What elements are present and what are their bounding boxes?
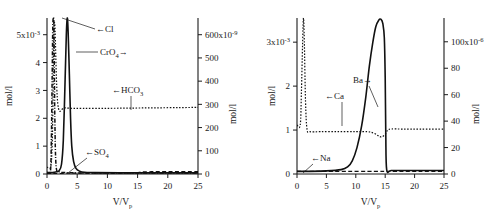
x-tick-label: 5 [324,181,329,191]
left-y-tick-label: 1 [286,125,291,135]
right-y-axis-title: mol/l [228,104,238,124]
x-tick-label: 0 [295,181,300,191]
right-y-tick-label: 400 [205,76,219,86]
dual-panel-chromatography-figure: 0510152025V/Vp012345x10-3mol/l0100200300… [0,0,493,222]
series-cro4 [47,18,198,173]
left-y-tick-label: 3 [36,86,41,96]
x-tick-label: 5 [75,181,80,191]
left-y-tick-label: 4 [36,58,41,68]
x-tick-label: 25 [440,181,450,191]
x-tick-label: 10 [103,181,113,191]
so4-annotation-text: ←SO4 [85,147,110,159]
left-y-tick-label: 0 [36,169,41,179]
x-tick-label: 10 [351,181,361,191]
x-tick-label: 15 [381,181,391,191]
ca-annotation: ←Ca [325,91,344,126]
right-y-tick-label: 80 [451,63,461,73]
panel-left: 0510152025V/Vp012345x10-3mol/l0100200300… [0,0,246,222]
cro4-annotation-text: CrO4→ [100,47,128,59]
right-y-tick-label: 100x10-6 [451,36,484,47]
left-y-axis-title: mol/l [267,86,277,106]
left-y-tick-label: 3x10-3 [267,36,290,47]
right-y-axis-title: mol/l [471,104,481,124]
x-tick-label: 20 [410,181,420,191]
right-y-tick-label: 300 [205,100,219,110]
series-ba [297,19,444,172]
hco3-annotation-text: ←HCO3 [112,85,143,97]
left-y-tick-label: 2 [36,113,41,123]
right-y-tick-label: 20 [451,143,461,153]
panel-left-plot: 0510152025V/Vp012345x10-3mol/l0100200300… [0,0,246,222]
right-y-tick-label: 600x10-9 [205,29,237,40]
right-y-tick-label: 0 [451,169,456,179]
right-y-tick-label: 0 [205,169,210,179]
right-y-tick-label: 200 [205,123,219,133]
x-axis-title: V/Vp [361,197,381,209]
panel-right: 0510152025V/Vp0123x10-3mol/l020406080100… [247,0,493,222]
so4-annotation: ←SO4 [68,147,110,173]
na-annotation-text: ←Na [311,153,331,163]
right-y-tick-label: 60 [451,90,461,100]
right-y-tick-label: 40 [451,116,461,126]
left-y-tick-label: 2 [286,81,291,91]
cl-annotation: ←Cl [62,18,114,34]
panel-right-plot: 0510152025V/Vp0123x10-3mol/l020406080100… [247,0,493,222]
cl-annotation-text: ←Cl [96,24,114,34]
x-axis-title: V/Vp [113,197,133,209]
na-annotation: ←Na [303,153,331,173]
ba-annotation-text: Ba→ [353,75,372,85]
left-y-tick-label: 5x10-3 [17,29,40,40]
right-y-tick-label: 500 [205,53,219,63]
right-y-tick-label: 100 [205,146,219,156]
x-tick-label: 25 [194,181,204,191]
ca-annotation-text: ←Ca [325,91,344,101]
x-tick-label: 15 [133,181,143,191]
left-y-tick-label: 1 [36,141,41,151]
hco3-annotation: ←HCO3 [112,85,143,110]
left-y-tick-label: 0 [286,169,291,179]
x-tick-label: 20 [163,181,173,191]
left-y-axis-title: mol/l [4,86,14,106]
cro4-annotation: CrO4→ [76,47,128,59]
x-tick-label: 0 [45,181,50,191]
ba-annotation-leader [369,86,378,107]
